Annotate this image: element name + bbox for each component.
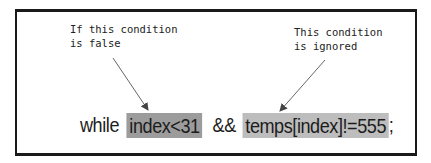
- arrows-layer: [0, 0, 431, 163]
- code-statement: while index<31 && temps[index]!=555 ;: [80, 112, 393, 138]
- code-condition2-highlight: temps[index]!=555: [243, 113, 389, 138]
- arrow-to-condition2-icon: [280, 60, 325, 111]
- code-condition1-highlight: index<31: [127, 113, 203, 138]
- code-operator-and: &&: [213, 113, 236, 137]
- code-keyword-while: while: [80, 113, 119, 137]
- code-terminator: ;: [389, 113, 394, 137]
- arrow-to-condition1-icon: [113, 58, 148, 110]
